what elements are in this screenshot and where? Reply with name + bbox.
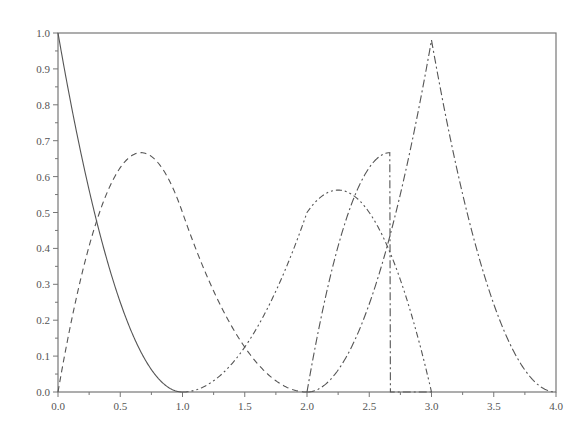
y-tick-label: 1.0 bbox=[36, 27, 50, 39]
y-tick-label: 0.3 bbox=[36, 278, 50, 290]
y-tick-label: 0.4 bbox=[36, 242, 50, 254]
y-tick-label: 0.9 bbox=[36, 63, 50, 75]
x-tick-label: 2.0 bbox=[300, 400, 314, 412]
plot-area: 0.00.51.01.52.02.53.03.54.00.00.10.20.30… bbox=[36, 27, 563, 412]
y-tick-label: 0.5 bbox=[36, 207, 50, 219]
x-tick-label: 1.0 bbox=[176, 400, 190, 412]
y-tick-label: 0.1 bbox=[36, 350, 50, 362]
series-N0 bbox=[58, 33, 183, 392]
series-N1 bbox=[58, 153, 307, 392]
x-tick-label: 3.5 bbox=[487, 400, 501, 412]
y-tick-label: 0.8 bbox=[36, 99, 50, 111]
y-tick-label: 0.0 bbox=[36, 386, 50, 398]
x-tick-label: 1.5 bbox=[238, 400, 252, 412]
series-N2 bbox=[183, 190, 432, 392]
bspline-basis-chart: 0.00.51.01.52.02.53.03.54.00.00.10.20.30… bbox=[0, 0, 587, 444]
series-N3 bbox=[307, 153, 432, 392]
x-tick-label: 0.5 bbox=[113, 400, 127, 412]
y-tick-label: 0.7 bbox=[36, 135, 50, 147]
y-tick-label: 0.2 bbox=[36, 314, 50, 326]
x-tick-label: 4.0 bbox=[549, 400, 563, 412]
x-tick-label: 0.0 bbox=[51, 400, 65, 412]
x-tick-label: 2.5 bbox=[362, 400, 376, 412]
x-tick-label: 3.0 bbox=[425, 400, 439, 412]
y-tick-label: 0.6 bbox=[36, 171, 50, 183]
series-N4 bbox=[307, 40, 556, 392]
